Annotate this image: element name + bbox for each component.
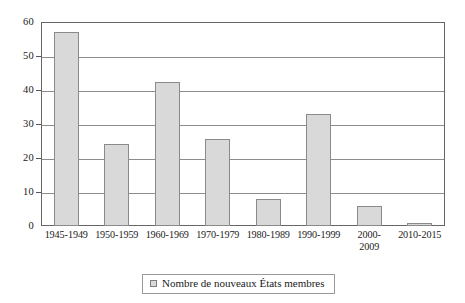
bar [54,32,79,226]
legend: Nombre de nouveaux États membres [142,274,335,294]
bar [306,114,331,226]
y-tick-label: 60 [23,17,34,28]
bar [205,139,230,226]
bar [357,206,382,226]
y-tick-label: 50 [23,51,34,62]
y-tick-label: 0 [29,221,34,232]
bar-chart: 0102030405060 1945-19491950-19591960-196… [0,0,465,303]
y-tick-label: 30 [23,119,34,130]
bar [155,82,180,227]
bar [104,144,129,226]
bar [256,199,281,226]
x-tick-label: 2010-2015 [391,229,450,241]
y-tick-label: 20 [23,153,34,164]
y-tick-label: 40 [23,85,34,96]
bars-group [41,22,445,226]
y-axis: 0102030405060 [0,0,41,303]
bar [407,223,432,226]
y-tick-label: 10 [23,187,34,198]
legend-label: Nombre de nouveaux États membres [162,277,325,290]
legend-swatch-icon [150,280,157,287]
x-axis-labels: 1945-19491950-19591960-19691970-19791980… [41,229,445,263]
